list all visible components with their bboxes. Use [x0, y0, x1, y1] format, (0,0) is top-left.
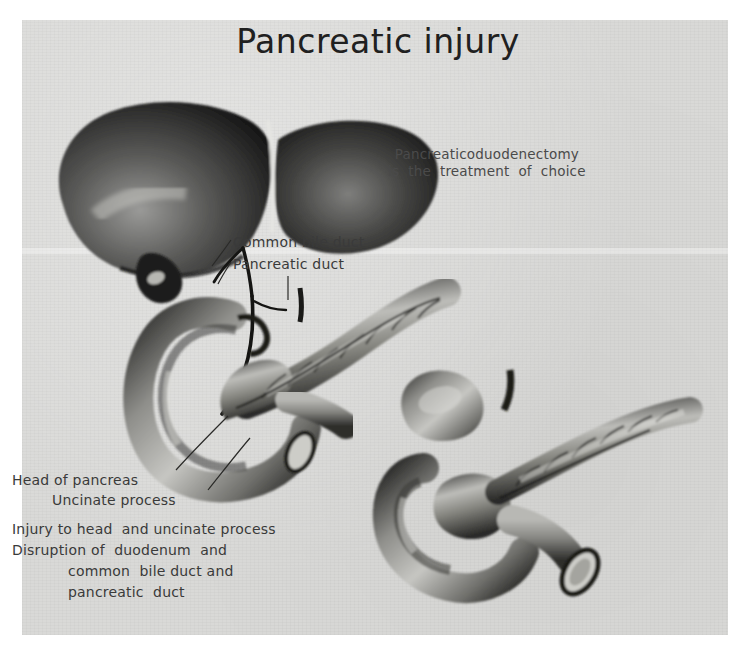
caption-uncinate-process: Uncinate process [52, 492, 176, 509]
caption-disruption-pancreatic-duct: pancreatic duct [68, 584, 185, 601]
label-pancreatic-duct: Pancreatic duct [233, 256, 344, 273]
portal-vessel-upper [300, 288, 302, 322]
caption-disruption-common-bile-duct: common bile duct and [68, 563, 234, 580]
jejunum-cut-lumen [281, 429, 319, 475]
vessel-stalk [504, 370, 511, 410]
duct-branch [252, 300, 286, 310]
treatment-note: Pancreaticoduodenectomyis the treatment … [388, 146, 586, 180]
resected-specimen [388, 370, 690, 600]
label-common-bile-duct: Common bile duct [233, 234, 364, 251]
treatment-note-line2: is the treatment of choice [388, 163, 586, 179]
caption-disruption: Disruption of duodenum and [12, 542, 227, 559]
figure-page: Pancreatic injury [0, 0, 756, 655]
caption-injury: Injury to head and uncinate process [12, 521, 276, 538]
caption-head-of-pancreas: Head of pancreas [12, 472, 138, 489]
treatment-note-line1: Pancreaticoduodenectomy [395, 146, 579, 162]
